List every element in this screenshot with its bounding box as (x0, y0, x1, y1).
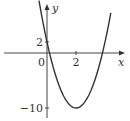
parabola-curve (39, 1, 111, 108)
y-axis-arrow-icon (45, 4, 50, 10)
x-tick-label: 2 (73, 56, 80, 69)
chart: 22−10 x y 0 (0, 0, 130, 121)
y-axis-label: y (51, 2, 59, 15)
y-tick-label: −10 (20, 102, 43, 115)
y-tick-label: 2 (36, 36, 43, 49)
x-axis-label: x (118, 56, 125, 69)
x-axis-arrow-icon (119, 51, 125, 56)
origin-label: 0 (38, 56, 45, 69)
